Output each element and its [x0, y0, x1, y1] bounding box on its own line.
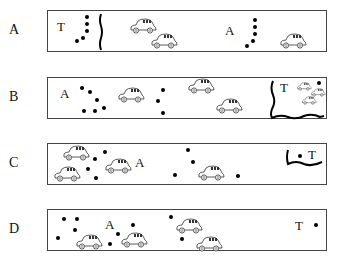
dot-icon [173, 173, 177, 177]
dot-icon [88, 90, 92, 94]
target-marker: T [57, 19, 65, 35]
start-marker: A [225, 23, 234, 39]
dot-icon [298, 154, 302, 158]
dot-icon [75, 217, 79, 221]
dot-icon [186, 148, 190, 152]
dot-icon [86, 167, 90, 171]
dot-icon [75, 39, 79, 43]
dot-icon [245, 44, 249, 48]
dot-icon [56, 236, 60, 240]
dot-icon [93, 157, 97, 161]
dot-icon [156, 99, 160, 103]
dot-icon [253, 25, 257, 29]
target-marker: T [280, 80, 288, 96]
dot-icon [80, 86, 84, 90]
dot-icon [81, 36, 85, 40]
dot-icon [314, 223, 318, 227]
target-marker: T [295, 218, 303, 234]
dot-icon [85, 22, 89, 26]
dot-icon [85, 29, 89, 33]
dot-icon [116, 232, 120, 236]
dot-icon [191, 160, 195, 164]
dot-icon [251, 39, 255, 43]
panel-d [47, 209, 327, 251]
dot-icon [161, 111, 165, 115]
dot-icon [62, 217, 66, 221]
row-label-b: B [9, 89, 18, 105]
dot-icon [180, 237, 184, 241]
dot-icon [94, 176, 98, 180]
row-label-a: A [9, 22, 19, 38]
panel-a [47, 10, 327, 52]
start-marker: A [105, 217, 114, 233]
dot-icon [73, 228, 77, 232]
dot-icon [108, 242, 112, 246]
dot-icon [82, 109, 86, 113]
dot-icon [169, 215, 173, 219]
dot-icon [317, 81, 321, 85]
dot-icon [161, 88, 165, 92]
row-label-d: D [9, 221, 19, 237]
dot-icon [95, 98, 99, 102]
dot-icon [93, 109, 97, 113]
start-marker: A [135, 155, 144, 171]
dot-icon [253, 18, 257, 22]
dot-icon [236, 174, 240, 178]
dot-icon [102, 106, 106, 110]
start-marker: A [60, 86, 69, 102]
target-marker: T [308, 147, 316, 163]
dot-icon [253, 32, 257, 36]
row-label-c: C [9, 155, 18, 171]
dot-icon [85, 15, 89, 19]
dot-icon [131, 223, 135, 227]
dot-icon [103, 150, 107, 154]
